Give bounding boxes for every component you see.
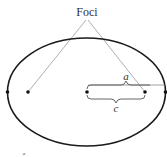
ellipse-foci-diagram: Foci a c a	[0, 0, 167, 157]
corner-mark: a	[23, 151, 26, 156]
right-focus-point	[143, 90, 147, 94]
left-focus-point	[26, 90, 30, 94]
foci-label: Foci	[76, 5, 98, 19]
leader-line-right	[88, 20, 145, 92]
leader-line-left	[28, 20, 86, 92]
center-point	[85, 90, 89, 94]
left-vertex-point	[6, 90, 10, 94]
focal-distance-label: c	[114, 102, 119, 114]
right-vertex-point	[164, 90, 167, 94]
semi-major-label: a	[123, 70, 129, 82]
brace-a	[87, 81, 150, 89]
